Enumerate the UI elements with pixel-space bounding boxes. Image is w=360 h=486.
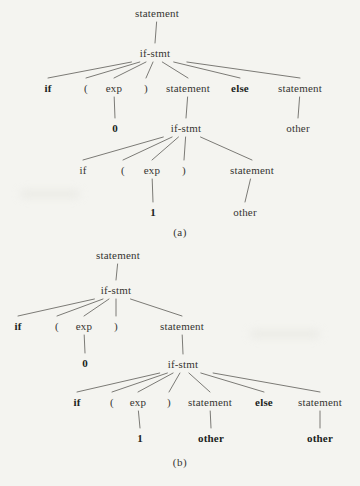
parse-tree-b: statementif-stmtif(exp)statement0if-stmt… xyxy=(0,0,360,486)
node-tree_b-statement-2: statement xyxy=(188,397,232,408)
node-tree_b-zero: 0 xyxy=(82,358,88,369)
node-tree_b-rparen-2: ) xyxy=(167,397,171,408)
parse-tree-figure: statementif-stmtif(exp)statementelsestat… xyxy=(0,0,360,486)
edge-tree_b-statement-root-ifstmt-1 xyxy=(116,264,118,280)
node-tree_b-rparen-1: ) xyxy=(114,321,118,332)
edge-tree_b-ifstmt-1-statement-1 xyxy=(131,299,183,316)
caption-b: (b) xyxy=(173,456,187,468)
node-tree_b-other-1: other xyxy=(198,433,224,444)
node-tree_b-statement-1: statement xyxy=(160,321,204,332)
edge-tree_b-ifstmt-2-exp-2 xyxy=(138,373,173,392)
edge-tree_b-exp-1-zero xyxy=(84,335,85,353)
node-tree_b-other-2: other xyxy=(307,433,333,444)
edge-tree_b-ifstmt-2-statement-3 xyxy=(213,373,320,392)
node-tree_b-one: 1 xyxy=(137,433,143,444)
edge-tree_b-ifstmt-2-statement-2 xyxy=(189,373,210,392)
node-tree_b-statement-root: statement xyxy=(96,250,140,261)
caption-a: (a) xyxy=(173,226,187,238)
edge-tree_b-exp-2-one xyxy=(138,411,140,428)
tree-b-edges xyxy=(0,0,360,486)
edge-tree_b-ifstmt-2-if-2 xyxy=(77,373,160,392)
node-tree_b-lparen-1: ( xyxy=(55,321,59,332)
edge-tree_b-ifstmt-2-else-1 xyxy=(201,373,264,392)
edge-tree_b-statement-1-ifstmt-2 xyxy=(182,335,183,354)
edge-tree_b-statement-2-other-1 xyxy=(210,411,211,428)
edge-tree_b-ifstmt-1-if-1 xyxy=(18,299,94,316)
node-tree_b-exp-1: exp xyxy=(76,321,92,332)
node-tree_b-lparen-2: ( xyxy=(110,397,114,408)
node-tree_b-if-1: if xyxy=(14,321,21,332)
node-tree_b-statement-3: statement xyxy=(298,397,342,408)
node-tree_b-ifstmt-2: if-stmt xyxy=(168,359,199,370)
node-tree_b-if-2: if xyxy=(73,397,80,408)
node-tree_b-ifstmt-1: if-stmt xyxy=(101,285,132,296)
node-tree_b-else-1: else xyxy=(255,397,273,408)
node-tree_b-exp-2: exp xyxy=(130,397,146,408)
edge-tree_b-ifstmt-2-rparen-2 xyxy=(169,373,180,392)
